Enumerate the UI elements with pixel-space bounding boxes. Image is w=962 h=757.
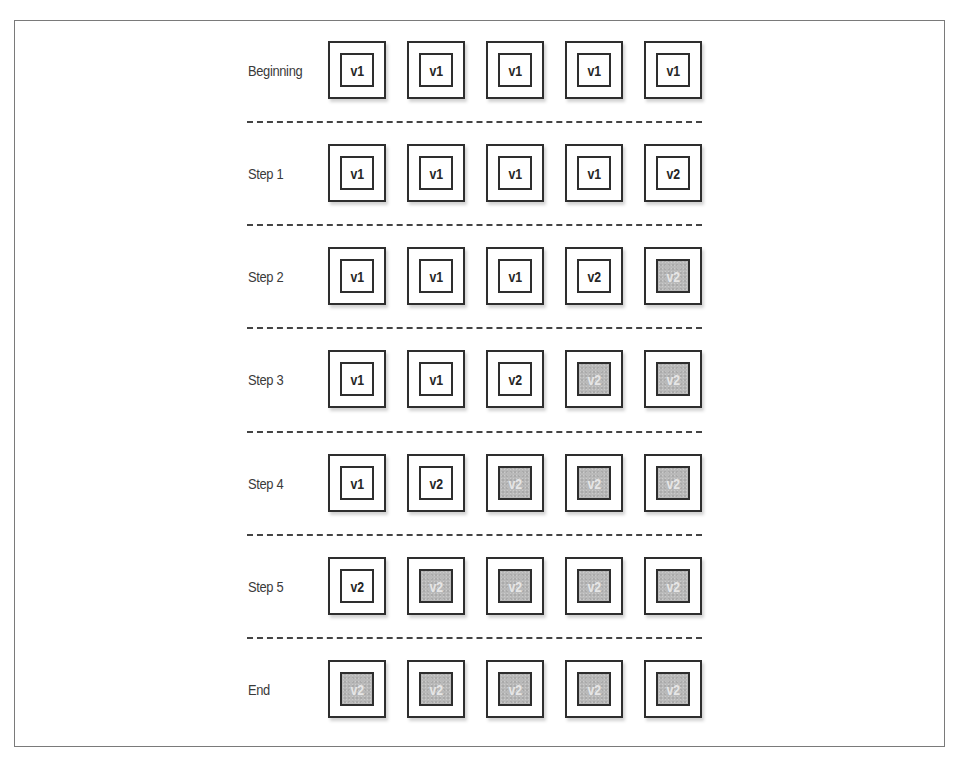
row-label: Step 5 bbox=[248, 557, 283, 617]
pod-box-v1: v1 bbox=[419, 259, 453, 293]
version-label: v1 bbox=[508, 268, 522, 285]
pod-box-v2: v2 bbox=[419, 569, 453, 603]
node-box: v2 bbox=[328, 660, 386, 718]
node-box: v2 bbox=[407, 454, 465, 512]
version-label: v2 bbox=[587, 578, 601, 595]
node-box: v2 bbox=[644, 247, 702, 305]
node-box: v2 bbox=[565, 350, 623, 408]
pod-box-v1: v1 bbox=[340, 362, 374, 396]
pod-box-v2: v2 bbox=[577, 362, 611, 396]
pod-box-v2: v2 bbox=[577, 569, 611, 603]
dashed-divider bbox=[247, 327, 702, 329]
node-box: v2 bbox=[407, 660, 465, 718]
dashed-divider bbox=[247, 534, 702, 536]
node-box: v2 bbox=[644, 557, 702, 615]
node-box: v2 bbox=[328, 557, 386, 615]
pod-box-v2: v2 bbox=[656, 569, 690, 603]
diagram-row: Step 3v1v1v2v2v2 bbox=[0, 350, 962, 410]
version-label: v1 bbox=[666, 62, 680, 79]
pod-box-v2: v2 bbox=[419, 466, 453, 500]
pod-box-v1: v1 bbox=[656, 53, 690, 87]
version-label: v2 bbox=[666, 475, 680, 492]
pod-box-v2: v2 bbox=[340, 569, 374, 603]
pod-box-v1: v1 bbox=[340, 156, 374, 190]
node-box: v2 bbox=[565, 247, 623, 305]
version-label: v2 bbox=[508, 371, 522, 388]
pod-box-v2: v2 bbox=[419, 672, 453, 706]
node-box: v1 bbox=[565, 41, 623, 99]
version-label: v2 bbox=[508, 475, 522, 492]
node-box: v1 bbox=[328, 247, 386, 305]
dashed-divider bbox=[247, 224, 702, 226]
row-label: Step 2 bbox=[248, 247, 283, 307]
pod-box-v1: v1 bbox=[419, 53, 453, 87]
pod-box-v1: v1 bbox=[340, 53, 374, 87]
version-label: v1 bbox=[587, 165, 601, 182]
node-box: v2 bbox=[565, 660, 623, 718]
node-box: v1 bbox=[407, 247, 465, 305]
version-label: v1 bbox=[350, 165, 364, 182]
pod-box-v1: v1 bbox=[340, 259, 374, 293]
version-label: v1 bbox=[429, 62, 443, 79]
version-label: v1 bbox=[508, 165, 522, 182]
version-label: v1 bbox=[350, 371, 364, 388]
node-box: v2 bbox=[486, 454, 544, 512]
pod-box-v1: v1 bbox=[340, 466, 374, 500]
version-label: v1 bbox=[508, 62, 522, 79]
diagram-row: Step 1v1v1v1v1v2 bbox=[0, 144, 962, 204]
node-box: v2 bbox=[644, 350, 702, 408]
pod-box-v2: v2 bbox=[498, 569, 532, 603]
version-label: v2 bbox=[429, 681, 443, 698]
pod-box-v2: v2 bbox=[498, 362, 532, 396]
pod-box-v2: v2 bbox=[498, 466, 532, 500]
pod-box-v2: v2 bbox=[656, 672, 690, 706]
version-label: v1 bbox=[350, 475, 364, 492]
node-box: v1 bbox=[328, 454, 386, 512]
version-label: v2 bbox=[508, 578, 522, 595]
version-label: v2 bbox=[350, 681, 364, 698]
row-label: Beginning bbox=[248, 41, 302, 101]
node-box: v1 bbox=[328, 144, 386, 202]
node-box: v1 bbox=[486, 144, 544, 202]
node-box: v2 bbox=[644, 660, 702, 718]
dashed-divider bbox=[247, 637, 702, 639]
diagram-row: Beginningv1v1v1v1v1 bbox=[0, 41, 962, 101]
row-label: End bbox=[248, 660, 270, 720]
version-label: v2 bbox=[666, 268, 680, 285]
node-box: v2 bbox=[486, 660, 544, 718]
node-box: v1 bbox=[407, 350, 465, 408]
row-label: Step 4 bbox=[248, 454, 283, 514]
node-box: v2 bbox=[565, 454, 623, 512]
dashed-divider bbox=[247, 121, 702, 123]
row-label: Step 1 bbox=[248, 144, 283, 204]
pod-box-v2: v2 bbox=[656, 156, 690, 190]
dashed-divider bbox=[247, 431, 702, 433]
version-label: v2 bbox=[587, 681, 601, 698]
row-label: Step 3 bbox=[248, 350, 283, 410]
version-label: v2 bbox=[587, 371, 601, 388]
pod-box-v2: v2 bbox=[577, 466, 611, 500]
pod-box-v1: v1 bbox=[577, 53, 611, 87]
diagram-row: Step 2v1v1v1v2v2 bbox=[0, 247, 962, 307]
version-label: v2 bbox=[587, 268, 601, 285]
version-label: v1 bbox=[429, 371, 443, 388]
pod-box-v2: v2 bbox=[498, 672, 532, 706]
version-label: v2 bbox=[508, 681, 522, 698]
node-box: v1 bbox=[328, 41, 386, 99]
diagram-row: Endv2v2v2v2v2 bbox=[0, 660, 962, 720]
node-box: v2 bbox=[486, 557, 544, 615]
pod-box-v2: v2 bbox=[656, 259, 690, 293]
version-label: v2 bbox=[666, 578, 680, 595]
version-label: v2 bbox=[350, 578, 364, 595]
pod-box-v2: v2 bbox=[656, 362, 690, 396]
pod-box-v1: v1 bbox=[577, 156, 611, 190]
version-label: v1 bbox=[350, 268, 364, 285]
version-label: v1 bbox=[350, 62, 364, 79]
node-box: v1 bbox=[644, 41, 702, 99]
pod-box-v2: v2 bbox=[577, 259, 611, 293]
version-label: v1 bbox=[429, 165, 443, 182]
pod-box-v2: v2 bbox=[656, 466, 690, 500]
pod-box-v1: v1 bbox=[498, 53, 532, 87]
node-box: v1 bbox=[407, 41, 465, 99]
version-label: v2 bbox=[666, 165, 680, 182]
